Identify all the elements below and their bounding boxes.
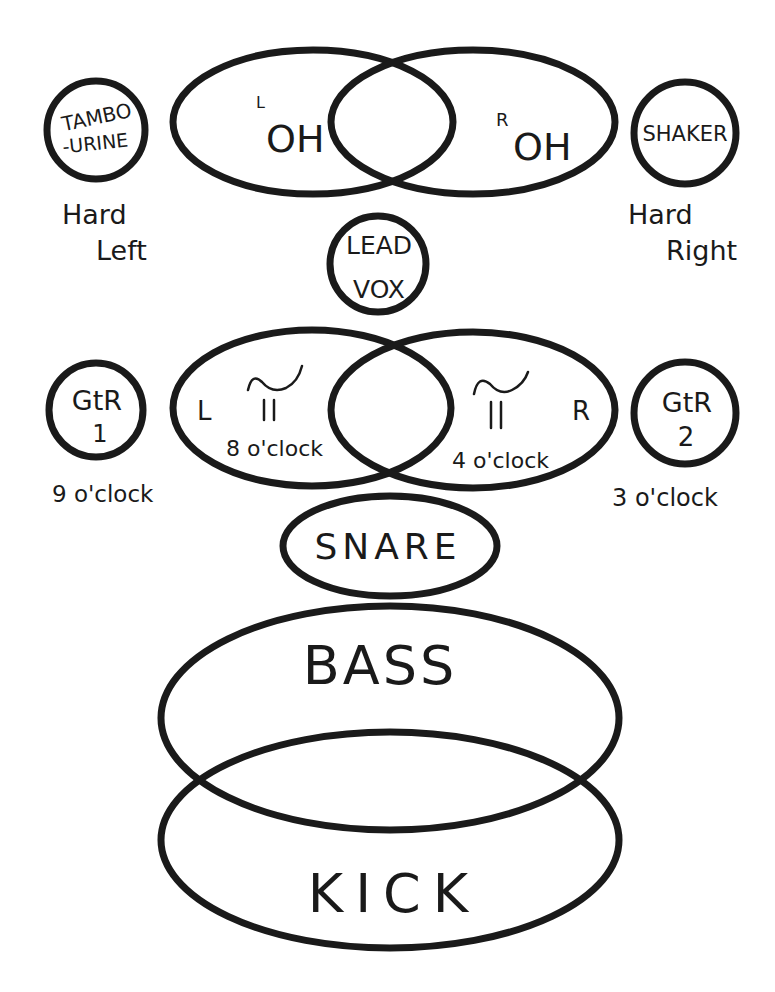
tambourine-pan-line1: Hard [62,199,127,230]
overhead-left-label: OH [266,117,324,161]
keyboard-glyph-right-icon [474,372,528,428]
kick-label: KICK [308,862,480,925]
lead-vocal-node: LEAD VOX [330,216,426,312]
keys-left-side: L [197,396,212,426]
guitar-1-pan: 9 o'clock [52,481,154,507]
guitar-2-label: GtR [662,387,712,418]
overhead-right-superscript: R [496,109,509,130]
snare-label: SNARE [314,526,461,567]
shaker-label: SHAKER [642,122,727,146]
kick-node: KICK [161,732,619,948]
lead-vocal-label-line1: LEAD [346,231,412,260]
guitar-1-node: GtR 1 [49,363,143,457]
guitar-2-node: GtR 2 [634,362,736,464]
guitar-2-number: 2 [678,422,695,452]
overhead-right-node: R OH [331,50,615,194]
shaker-pan-line1: Hard [628,199,693,230]
lead-vocal-label-line2: VOX [353,275,405,304]
panning-diagram: TAMBO -URINE Hard Left L OH R OH SHAKER … [0,0,775,992]
guitar-1-label: GtR [72,385,122,416]
keys-right-position: 4 o'clock [452,448,549,473]
shaker-pan-line2: Right [666,235,737,266]
keys-left-node: L 8 o'clock [173,330,451,486]
keys-right-side: R [572,396,590,426]
keys-right-node: R 4 o'clock [331,332,615,488]
overhead-right-label: OH [513,125,571,169]
shaker-node: SHAKER [634,82,736,184]
bass-label: BASS [303,634,458,697]
bass-node: BASS [161,606,619,830]
overhead-left-node: L OH [173,50,453,194]
tambourine-pan-line2: Left [96,235,147,266]
guitar-2-pan: 3 o'clock [612,484,718,512]
guitar-1-number: 1 [92,420,107,448]
keys-left-position: 8 o'clock [226,436,323,461]
tambourine-node: TAMBO -URINE [47,81,145,179]
snare-node: SNARE [283,496,497,596]
keyboard-glyph-left-icon [248,366,302,420]
overhead-left-superscript: L [256,93,265,112]
